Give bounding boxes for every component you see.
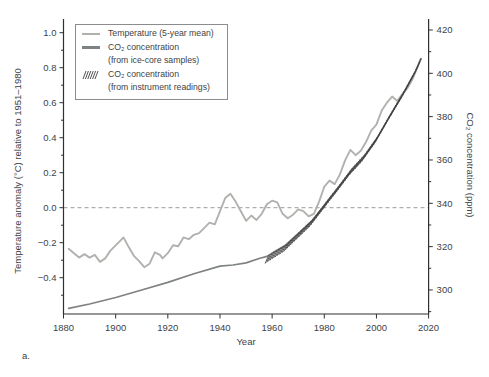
legend-label: Temperature (5-year mean) (108, 27, 214, 41)
co2-line-swatch-icon (82, 46, 100, 48)
y-left-tick-label: 0.0 (43, 202, 56, 213)
y-left-tick-label: 0.6 (43, 97, 56, 108)
x-tick-label: 2000 (366, 322, 387, 333)
y-left-tick-label: 0.2 (43, 167, 56, 178)
legend-box: Temperature (5-year mean) CO₂ concentrat… (75, 24, 228, 100)
y-right-tick-label: 420 (437, 24, 453, 35)
legend-label: CO₂ concentration (108, 68, 179, 82)
y-right-tick-label: 380 (437, 111, 453, 122)
x-tick-label: 2020 (418, 322, 439, 333)
y-axis-label-left: Temperature anomaly (°C) relative to 195… (12, 68, 23, 274)
x-axis-label: Year (236, 336, 255, 347)
hatch-swatch-icon (82, 70, 100, 80)
y-right-tick-label: 320 (437, 241, 453, 252)
x-tick-label: 1900 (105, 322, 126, 333)
legend-item-co2-instrument: CO₂ concentration (76, 68, 227, 82)
y-axis-label-right: CO₂ concentration (ppm) (465, 112, 476, 217)
x-tick-label: 1920 (157, 322, 178, 333)
y-right-tick-label: 360 (437, 154, 453, 165)
co2-instrument-hatch-marks (265, 58, 421, 263)
chart-canvas: 1.00.80.60.40.20.0−0.2−0.442040038036034… (0, 0, 489, 377)
legend-item-co2-ice-core-sublabel: (from ice-core samples) (76, 54, 227, 68)
y-left-tick-label: 0.8 (43, 62, 56, 73)
y-left-tick-label: 1.0 (43, 27, 56, 38)
x-tick-label: 1880 (53, 322, 74, 333)
temperature-line-swatch-icon (82, 33, 100, 35)
figure-climate-co2-temperature: 1.00.80.60.40.20.0−0.2−0.442040038036034… (0, 0, 489, 377)
y-left-tick-label: 0.4 (43, 132, 56, 143)
x-tick-label: 1940 (209, 322, 230, 333)
y-left-tick-label: −0.4 (38, 272, 57, 283)
y-right-tick-label: 300 (437, 284, 453, 295)
figure-part-label: a. (22, 350, 30, 361)
y-right-tick-label: 400 (437, 68, 453, 79)
y-left-tick-label: −0.2 (38, 237, 57, 248)
x-tick-label: 1960 (262, 322, 283, 333)
legend-label: CO₂ concentration (108, 41, 179, 55)
x-tick-label: 1980 (314, 322, 335, 333)
legend-item-temperature: Temperature (5-year mean) (76, 27, 227, 41)
legend-sublabel: (from ice-core samples) (108, 54, 199, 68)
legend-item-co2-instrument-sublabel: (from instrument readings) (76, 81, 227, 95)
y-right-tick-label: 340 (437, 198, 453, 209)
legend-item-co2-ice-core: CO₂ concentration (76, 41, 227, 55)
legend-sublabel: (from instrument readings) (108, 81, 210, 95)
